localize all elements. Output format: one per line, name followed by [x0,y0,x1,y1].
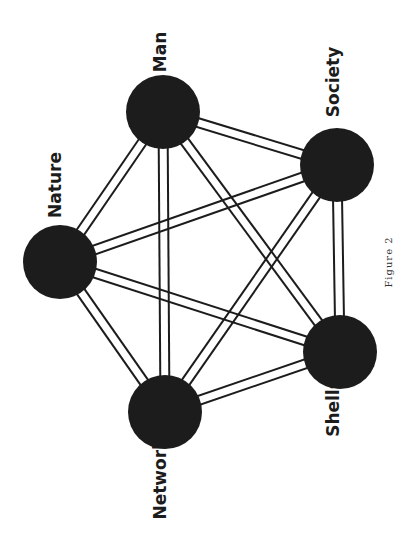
edges-layer [56,108,344,417]
edge-man-networks [167,112,169,412]
label-shells: Shells [323,379,343,437]
edge-man-networks [159,112,161,412]
label-man: Man [150,32,170,73]
edge-society-nature [59,161,336,258]
edge-society-networks [161,162,333,409]
edge-nature-shells [61,258,341,348]
label-society: Society [323,47,343,118]
node-society [300,128,374,202]
label-networks: Networks [150,428,170,519]
label-nature: Nature [45,152,65,218]
figure-caption: Figure 2 [383,236,394,287]
node-man [126,75,200,149]
pentagon-network-diagram: ManSocietyNatureNetworksShells Figure 2 [0,0,404,536]
node-shells [303,315,377,389]
edge-society-nature [61,169,338,266]
node-nature [23,225,97,299]
